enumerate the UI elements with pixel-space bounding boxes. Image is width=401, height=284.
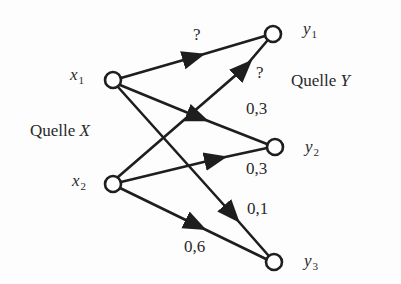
prob-x1-y3: 0,1	[247, 200, 268, 217]
prob-x2-y2: 0,3	[246, 160, 267, 177]
prob-x2-y1: ?	[256, 64, 264, 81]
label-x1: x1	[70, 66, 84, 86]
node-y1	[265, 26, 281, 42]
node-y3	[266, 254, 282, 270]
label-x2-sub: 2	[81, 180, 87, 192]
source-y-text: Quelle	[291, 71, 336, 90]
label-y3-var: y	[304, 251, 312, 270]
prob-x1-y2: 0,3	[246, 100, 267, 117]
label-y3: y3	[304, 252, 318, 272]
source-x-label: Quelle X	[30, 122, 90, 139]
node-x2	[105, 176, 121, 192]
source-x-text: Quelle	[30, 121, 75, 140]
node-x1	[105, 72, 121, 88]
label-y3-sub: 3	[313, 260, 319, 272]
label-y2: y2	[305, 138, 319, 158]
label-x2-var: x	[72, 171, 80, 190]
prob-x2-y3: 0,6	[184, 238, 205, 255]
channel-diagram: x1 x2 y1 y2 y3 Quelle X Quelle Y ? 0,3 0…	[0, 0, 401, 284]
label-x1-sub: 1	[79, 74, 85, 86]
label-x2: x2	[72, 172, 86, 192]
label-y1-var: y	[303, 19, 311, 38]
source-y-label: Quelle Y	[291, 72, 350, 89]
label-y1: y1	[303, 20, 317, 40]
source-x-var: X	[80, 121, 90, 140]
label-x1-var: x	[70, 65, 78, 84]
source-y-var: Y	[341, 71, 350, 90]
edge-x2-y1	[118, 41, 267, 177]
label-y1-sub: 1	[312, 28, 318, 40]
label-y2-var: y	[305, 137, 313, 156]
prob-x1-y1: ?	[193, 26, 201, 43]
node-y2	[267, 139, 283, 155]
label-y2-sub: 2	[314, 146, 320, 158]
